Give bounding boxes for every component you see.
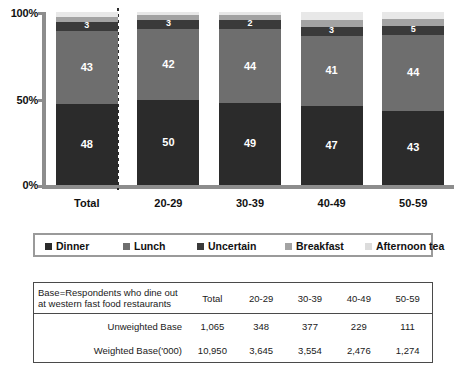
bar-segment-uncertain: 3	[137, 20, 199, 29]
bar-segment-dinner: 48	[56, 104, 118, 185]
bar-segment-afternoon-tea	[301, 12, 363, 20]
data-label: 41	[325, 65, 337, 76]
data-label: 43	[81, 62, 93, 73]
x-label-30-39: 30-39	[209, 196, 291, 210]
legend-label: Uncertain	[208, 240, 256, 252]
legend-item-afternoon-tea[interactable]: Afternoon tea	[365, 239, 444, 253]
data-label: 3	[329, 26, 334, 35]
stacked-bar: 34348	[56, 12, 118, 185]
bar-segment-lunch: 41	[301, 36, 363, 105]
bar-segment-dinner: 49	[219, 103, 281, 185]
weighted-30-39: 3,554	[286, 338, 335, 362]
data-label: 3	[166, 19, 171, 28]
legend-swatch-icon	[45, 243, 52, 250]
bar-segment-dinner: 50	[137, 100, 199, 185]
data-label: 44	[244, 61, 256, 72]
unweighted-50-59: 111	[383, 314, 432, 339]
x-label-40-49: 40-49	[291, 196, 373, 210]
bar-segment-lunch: 42	[137, 29, 199, 100]
table-row: Weighted Base('000) 10,950 3,645 3,554 2…	[34, 338, 432, 362]
stacked-bar: 34147	[301, 12, 363, 185]
table-col-header-total: Total	[188, 283, 237, 314]
data-label: 42	[162, 59, 174, 70]
data-label: 48	[81, 139, 93, 150]
x-axis-line	[42, 185, 454, 189]
bar-segment-uncertain: 5	[382, 26, 444, 35]
y-tick-0: 0%	[2, 180, 38, 190]
weighted-40-49: 2,476	[334, 338, 383, 362]
legend-swatch-icon	[197, 243, 204, 250]
data-label: 44	[407, 67, 419, 78]
data-label: 3	[84, 21, 89, 30]
data-label: 50	[162, 137, 174, 148]
y-tick-100: 100%	[2, 8, 38, 18]
table-row: Unweighted Base 1,065 348 377 229 111	[34, 314, 432, 339]
bar-group-total: 34348	[56, 12, 118, 185]
data-label: 47	[325, 140, 337, 151]
unweighted-30-39: 377	[286, 314, 335, 339]
legend-swatch-icon	[123, 243, 130, 250]
bar-segment-uncertain: 2	[219, 20, 281, 29]
table-col-header-50-59: 50-59	[383, 283, 432, 314]
bar-segment-lunch: 44	[219, 29, 281, 103]
weighted-50-59: 1,274	[383, 338, 432, 362]
plot-region: 3434834250244493414754443	[46, 12, 454, 185]
table-header-description: Base=Respondents who dine out at western…	[34, 283, 188, 314]
legend-label: Breakfast	[296, 240, 344, 252]
row-label-weighted-base: Weighted Base('000)	[34, 338, 188, 362]
base-desc-line2: at western fast food restaurants	[38, 298, 188, 309]
base-table: Base=Respondents who dine out at western…	[33, 282, 433, 363]
bar-segment-dinner: 43	[382, 111, 444, 185]
unweighted-total: 1,065	[188, 314, 237, 339]
stacked-bar-chart: 100% 50% 0% 3434834250244493414754443 To…	[0, 0, 466, 222]
data-label: 49	[244, 138, 256, 149]
weighted-20-29: 3,645	[237, 338, 286, 362]
legend-item-dinner[interactable]: Dinner	[45, 239, 89, 253]
legend-label: Afternoon tea	[376, 240, 444, 252]
legend-swatch-icon	[365, 243, 372, 250]
table-col-header-20-29: 20-29	[237, 283, 286, 314]
data-label: 5	[411, 25, 416, 34]
data-label: 2	[247, 19, 252, 28]
legend-label: Lunch	[134, 240, 166, 252]
bar-segment-uncertain: 3	[301, 27, 363, 36]
x-label-20-29: 20-29	[128, 196, 210, 210]
x-label-50-59: 50-59	[372, 196, 454, 210]
bar-group-40-49: 34147	[301, 12, 363, 185]
table-header-row: Base=Respondents who dine out at western…	[34, 283, 432, 314]
bar-group-50-59: 54443	[382, 12, 444, 185]
unweighted-20-29: 348	[237, 314, 286, 339]
bar-segment-uncertain: 3	[56, 22, 118, 31]
bar-group-20-29: 34250	[137, 12, 199, 185]
unweighted-40-49: 229	[334, 314, 383, 339]
chart-legend: DinnerLunchUncertainBreakfastAfternoon t…	[33, 233, 433, 257]
bar-segment-dinner: 47	[301, 106, 363, 185]
base-desc-line1: Base=Respondents who dine out	[38, 287, 188, 298]
legend-item-breakfast[interactable]: Breakfast	[285, 239, 344, 253]
data-label: 43	[407, 142, 419, 153]
row-label-unweighted-base: Unweighted Base	[34, 314, 188, 339]
y-tick-50: 50%	[2, 95, 38, 105]
legend-swatch-icon	[285, 243, 292, 250]
bar-segment-afternoon-tea	[382, 12, 444, 19]
x-label-total: Total	[46, 196, 128, 210]
stacked-bar: 54443	[382, 12, 444, 185]
x-axis-category-labels: Total20-2930-3940-4950-59	[46, 196, 454, 214]
weighted-total: 10,950	[188, 338, 237, 362]
legend-label: Dinner	[56, 240, 89, 252]
legend-item-uncertain[interactable]: Uncertain	[197, 239, 256, 253]
bar-segment-lunch: 44	[382, 35, 444, 111]
bar-segment-lunch: 43	[56, 31, 118, 104]
legend-item-lunch[interactable]: Lunch	[123, 239, 166, 253]
stacked-bar: 24449	[219, 12, 281, 185]
bar-group-30-39: 24449	[219, 12, 281, 185]
stacked-bar: 34250	[137, 12, 199, 185]
table-col-header-30-39: 30-39	[286, 283, 335, 314]
y-axis: 100% 50% 0%	[0, 0, 38, 190]
table-col-header-40-49: 40-49	[334, 283, 383, 314]
